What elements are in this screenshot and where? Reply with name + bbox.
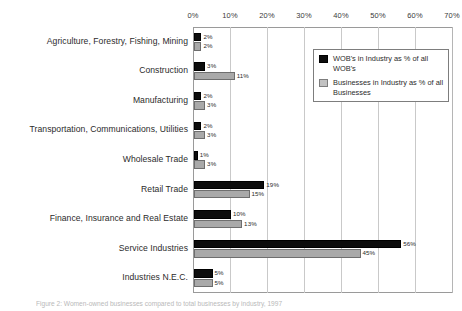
bar-value-label-businesses-1: 11% — [237, 72, 249, 81]
bar-chart: 0%10%20%30%40%50%60%70% Agriculture, For… — [0, 0, 462, 292]
y-axis-category-labels: Agriculture, Forestry, Fishing, MiningCo… — [0, 27, 188, 293]
category-label-2: Manufacturing — [0, 95, 188, 105]
bar-businesses-0 — [194, 42, 201, 51]
category-label-7: Service Industries — [0, 243, 188, 253]
legend-swatch-wob-icon — [319, 55, 328, 63]
x-tick-label-10: 10% — [222, 11, 237, 20]
figure-caption: Figure 2: Women-owned businesses compare… — [36, 299, 436, 308]
figure-container: 0%10%20%30%40%50%60%70% Agriculture, For… — [0, 0, 462, 311]
chart-legend: WOB's in Industry as % of all WOB's Busi… — [313, 49, 449, 102]
bar-value-label-wob-8: 5% — [215, 269, 224, 278]
x-tick-label-60: 60% — [407, 11, 422, 20]
bar-businesses-1 — [194, 72, 235, 81]
category-label-5: Retail Trade — [0, 184, 188, 194]
bar-wob-6 — [194, 210, 231, 219]
bar-value-label-businesses-2: 3% — [207, 101, 216, 110]
bar-businesses-7 — [194, 249, 361, 258]
bar-wob-1 — [194, 62, 205, 71]
bar-businesses-6 — [194, 220, 242, 229]
legend-item-businesses: Businesses in Industry as % of all Busin… — [319, 78, 444, 97]
bar-wob-8 — [194, 269, 213, 278]
bar-value-label-wob-6: 10% — [233, 210, 246, 219]
bar-businesses-4 — [194, 160, 205, 169]
bar-value-label-businesses-4: 3% — [207, 160, 216, 169]
bar-value-label-wob-4: 1% — [200, 151, 209, 160]
category-label-4: Wholesale Trade — [0, 154, 188, 164]
bar-value-label-wob-7: 56% — [403, 240, 416, 249]
legend-label-wob: WOB's in Industry as % of all WOB's — [333, 54, 444, 73]
bar-value-label-wob-0: 2% — [203, 33, 212, 42]
category-label-0: Agriculture, Forestry, Fishing, Mining — [0, 36, 188, 46]
x-tick-label-30: 30% — [296, 11, 311, 20]
legend-item-wob: WOB's in Industry as % of all WOB's — [319, 54, 444, 73]
bar-value-label-businesses-6: 13% — [244, 220, 257, 229]
bar-businesses-2 — [194, 101, 205, 110]
x-tick-label-70: 70% — [444, 11, 459, 20]
legend-swatch-businesses-icon — [319, 79, 328, 87]
category-label-1: Construction — [0, 65, 188, 75]
x-tick-label-0: 0% — [187, 11, 198, 20]
bar-businesses-5 — [194, 190, 250, 199]
bar-value-label-businesses-7: 45% — [363, 249, 376, 258]
bar-businesses-8 — [194, 279, 213, 288]
bar-value-label-wob-2: 2% — [203, 92, 212, 101]
x-tick-label-50: 50% — [370, 11, 385, 20]
category-label-8: Industries N.E.C. — [0, 272, 188, 282]
bar-businesses-3 — [194, 131, 205, 140]
bar-value-label-wob-1: 3% — [207, 62, 216, 71]
gridline-70 — [452, 27, 453, 293]
bar-value-label-businesses-3: 3% — [207, 131, 216, 140]
category-label-6: Finance, Insurance and Real Estate — [0, 213, 188, 223]
bar-value-label-businesses-5: 15% — [252, 190, 265, 199]
x-tick-label-20: 20% — [259, 11, 274, 20]
bar-wob-3 — [194, 122, 201, 131]
bar-value-label-wob-3: 2% — [203, 122, 212, 131]
bar-wob-5 — [194, 181, 264, 190]
bar-wob-4 — [194, 151, 198, 160]
bar-wob-2 — [194, 92, 201, 101]
bar-wob-7 — [194, 240, 401, 249]
legend-label-businesses: Businesses in Industry as % of all Busin… — [333, 78, 444, 97]
category-label-3: Transportation, Communications, Utilitie… — [0, 124, 188, 134]
x-axis-tick-labels: 0%10%20%30%40%50%60%70% — [193, 11, 452, 25]
bar-value-label-businesses-8: 5% — [215, 279, 224, 288]
bar-wob-0 — [194, 33, 201, 42]
bar-value-label-businesses-0: 2% — [203, 42, 212, 51]
x-tick-label-40: 40% — [333, 11, 348, 20]
bar-value-label-wob-5: 19% — [266, 181, 279, 190]
